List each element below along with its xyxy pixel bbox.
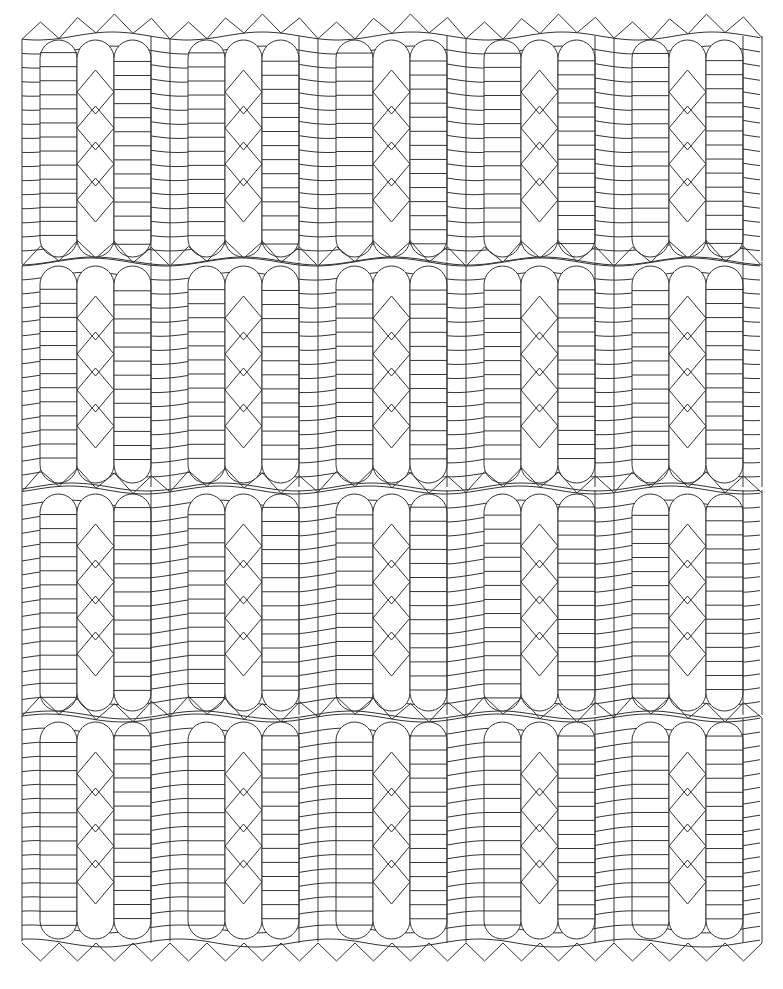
pill-column bbox=[336, 494, 373, 711]
pill-column bbox=[632, 40, 669, 257]
pill-column bbox=[40, 494, 77, 711]
pill-column bbox=[373, 722, 410, 939]
pill-column bbox=[558, 722, 595, 939]
zigzag-border bbox=[22, 14, 762, 39]
pattern-row bbox=[22, 241, 762, 491]
pill-column bbox=[262, 40, 299, 257]
pill-column bbox=[77, 266, 114, 483]
pill-column bbox=[77, 722, 114, 939]
pill-column bbox=[484, 494, 521, 711]
pill-column bbox=[225, 266, 262, 483]
pill-column bbox=[373, 494, 410, 711]
wavy-line bbox=[22, 32, 760, 40]
pattern-row bbox=[22, 14, 762, 265]
pill-column bbox=[410, 494, 447, 711]
pill-column bbox=[521, 40, 558, 257]
pill-column bbox=[484, 722, 521, 939]
pill-column bbox=[669, 266, 706, 483]
pill-column bbox=[114, 722, 151, 939]
pill-column bbox=[558, 494, 595, 711]
pill-column bbox=[188, 40, 225, 257]
quilt-pattern-drawing bbox=[0, 0, 783, 989]
pill-column bbox=[706, 494, 743, 711]
pill-column bbox=[669, 494, 706, 711]
pill-column bbox=[114, 40, 151, 257]
pill-column bbox=[262, 722, 299, 939]
pill-column bbox=[225, 494, 262, 711]
pill-column bbox=[40, 266, 77, 483]
zigzag-border-bottom bbox=[22, 943, 762, 961]
pill-column bbox=[669, 722, 706, 939]
pill-column bbox=[188, 722, 225, 939]
pill-column bbox=[262, 494, 299, 711]
pill-column bbox=[521, 266, 558, 483]
pill-column bbox=[336, 722, 373, 939]
pill-column bbox=[225, 722, 262, 939]
quilt-pattern-canvas bbox=[0, 0, 783, 989]
pill-column bbox=[632, 722, 669, 939]
pill-column bbox=[114, 494, 151, 711]
pill-column bbox=[40, 40, 77, 257]
pill-column bbox=[77, 494, 114, 711]
pill-column bbox=[706, 722, 743, 939]
pill-column bbox=[521, 722, 558, 939]
pattern-lines bbox=[22, 14, 762, 961]
pill-column bbox=[77, 40, 114, 257]
pattern-row bbox=[22, 696, 762, 947]
pill-column bbox=[373, 40, 410, 257]
pill-column bbox=[225, 40, 262, 257]
pill-column bbox=[40, 722, 77, 939]
pill-column bbox=[521, 494, 558, 711]
pill-column bbox=[336, 40, 373, 257]
pill-column bbox=[669, 40, 706, 257]
pill-column bbox=[558, 40, 595, 257]
pattern-row bbox=[22, 468, 762, 719]
pill-column bbox=[632, 494, 669, 711]
pill-column bbox=[706, 266, 743, 483]
pill-column bbox=[114, 266, 151, 483]
pill-column bbox=[484, 40, 521, 257]
pill-column bbox=[410, 722, 447, 939]
pill-column bbox=[188, 494, 225, 711]
pill-column bbox=[410, 40, 447, 257]
pill-column bbox=[632, 266, 669, 483]
pill-column bbox=[373, 266, 410, 483]
pill-column bbox=[706, 40, 743, 257]
